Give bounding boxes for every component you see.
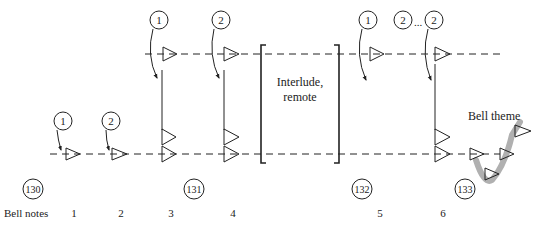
interlude-label-line1: Interlude, [277,75,323,89]
svg-text:2: 2 [431,14,437,26]
svg-text:131: 131 [187,184,202,195]
bell-theme-label: Bell theme [468,109,520,123]
bell-triangle-note-4-upper [224,129,239,145]
arrow-lower-2 [106,130,109,150]
interlude-right-bracket [334,45,339,163]
section-label-133: 133 [455,179,475,199]
step-marker-upper-r2b: 2 [425,11,443,29]
svg-text:130: 130 [26,184,41,195]
step-marker-upper-r2a: 2 [394,11,412,29]
interlude-left-bracket [261,45,266,163]
bell-notes-label: Bell notes [4,207,48,219]
svg-text:2: 2 [108,115,114,127]
step-marker-upper-2: 2 [212,11,230,29]
step-marker-upper-1: 1 [150,11,168,29]
bell-note-number-5: 5 [377,207,383,219]
svg-text:133: 133 [458,184,473,195]
section-label-132: 132 [352,179,372,199]
svg-text:1: 1 [60,115,66,127]
bell-note-number-6: 6 [440,207,446,219]
step-ellipsis: ... [414,16,423,28]
bell-theme-path [476,122,520,181]
section-label-130: 130 [23,179,43,199]
interlude-label-line2: remote [283,90,316,104]
bell-note-number-1: 1 [71,207,77,219]
step-marker-lower-2: 2 [102,112,120,130]
svg-text:2: 2 [400,14,406,26]
bell-triangle-note-6-upper [435,129,450,145]
svg-text:1: 1 [156,14,162,26]
step-marker-lower-1: 1 [54,112,72,130]
bell-note-number-3: 3 [168,207,174,219]
section-label-131: 131 [184,179,204,199]
bell-diagram: Interlude, remote Bell theme 1 2 1 2 [0,0,539,227]
arrow-lower-1 [57,130,61,150]
step-marker-upper-r1: 1 [359,11,377,29]
bell-note-number-4: 4 [230,207,236,219]
bell-note-number-2: 2 [118,207,124,219]
svg-text:1: 1 [365,14,371,26]
bell-triangle-note-3-upper [162,129,176,145]
svg-text:2: 2 [218,14,224,26]
svg-text:132: 132 [355,184,370,195]
